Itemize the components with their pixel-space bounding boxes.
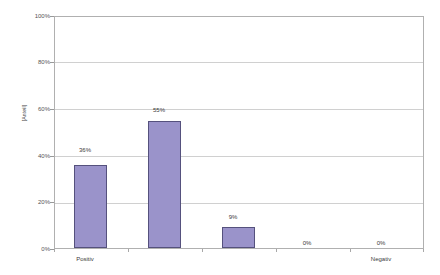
bar-chart: [Anteil] 100% 80% 60% 40% 20% 0% 36% 55%… (0, 0, 440, 275)
gridline-20 (55, 203, 423, 204)
y-tick-label-20: 20% (8, 199, 50, 205)
bar-2 (148, 121, 181, 248)
y-tick-label-40: 40% (8, 153, 50, 159)
x-tick-mark-4 (350, 249, 351, 252)
bar-label-4: 0% (281, 240, 333, 246)
x-tick-mark-5 (423, 249, 424, 252)
y-axis-ticks: 100% 80% 60% 40% 20% 0% (0, 0, 50, 275)
x-tick-mark-2 (202, 249, 203, 252)
x-tick-mark-3 (276, 249, 277, 252)
x-tick-mark-0 (54, 249, 55, 252)
bar-1 (74, 165, 107, 248)
x-category-label-positiv: Positiv (59, 256, 111, 262)
bar-label-1: 36% (59, 147, 111, 153)
gridline-80 (55, 62, 423, 63)
gridline-60 (55, 109, 423, 110)
x-tick-mark-1 (128, 249, 129, 252)
y-tick-label-80: 80% (8, 59, 50, 65)
gridline-40 (55, 156, 423, 157)
y-tick-label-60: 60% (8, 106, 50, 112)
y-tick-label-0: 0% (8, 246, 50, 252)
bar-label-3: 9% (207, 214, 259, 220)
bar-3 (222, 227, 255, 248)
bar-label-5: 0% (355, 240, 407, 246)
bar-label-2: 55% (133, 107, 185, 113)
y-tick-label-100: 100% (8, 13, 50, 19)
x-category-label-negativ: Negativ (355, 256, 407, 262)
